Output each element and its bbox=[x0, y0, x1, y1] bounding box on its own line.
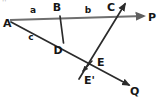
segment-label-a: a bbox=[30, 5, 36, 15]
point-label-e: E bbox=[97, 56, 105, 69]
geometry-figure: '' A B C D E E' P bbox=[0, 0, 158, 97]
ray-a-to-p bbox=[10, 16, 144, 20]
segment-b-to-d bbox=[60, 16, 64, 43]
point-label-b: B bbox=[53, 1, 61, 14]
segment-label-b: b bbox=[85, 5, 92, 15]
point-label-d: D bbox=[53, 44, 62, 57]
segment-label-c: c bbox=[28, 32, 33, 42]
point-label-a: A bbox=[3, 17, 12, 30]
point-label-c: C bbox=[107, 1, 115, 14]
figure-canvas: A B C D E E' P Q a b c bbox=[0, 0, 158, 97]
point-label-e-prime: E' bbox=[84, 74, 95, 87]
point-label-p: P bbox=[148, 11, 156, 24]
point-label-q: Q bbox=[130, 85, 139, 97]
